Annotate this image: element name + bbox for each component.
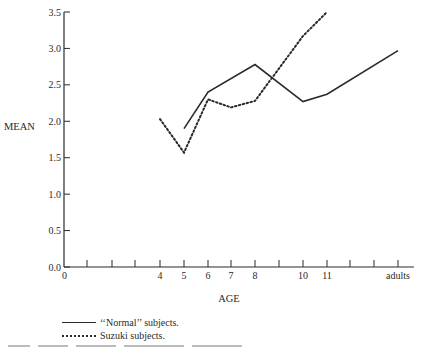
- y-tick-label: 1.5: [49, 152, 62, 163]
- x-tick-label: 0: [62, 270, 67, 281]
- x-tick-label: 8: [253, 270, 258, 281]
- y-tick-label: 2.0: [49, 116, 62, 127]
- legend-label-suzuki: Suzuki subjects.: [100, 329, 165, 342]
- x-tick-label: 10: [298, 270, 308, 281]
- solid-line-swatch-icon: [62, 322, 96, 323]
- y-tick-label: 0.5: [49, 225, 62, 236]
- caption-fragment: [8, 345, 268, 350]
- chart-series: [160, 12, 398, 153]
- x-axis-title: AGE: [218, 293, 240, 304]
- legend-label-normal: ‘‘Normal’’ subjects.: [100, 316, 179, 329]
- chart-axes: 0.00.51.01.52.02.53.03.50456781011adults: [49, 7, 415, 282]
- x-tick-label: 4: [158, 270, 163, 281]
- series-normal-line: [184, 51, 398, 129]
- series-suzuki-line: [160, 12, 327, 153]
- chart-legend: ‘‘Normal’’ subjects. Suzuki subjects.: [62, 316, 179, 342]
- x-tick-label: adults: [386, 270, 410, 281]
- line-chart: 0.00.51.01.52.02.53.03.50456781011adults…: [0, 0, 422, 315]
- dotted-line-swatch-icon: [62, 335, 96, 337]
- x-tick-label: 11: [322, 270, 332, 281]
- y-tick-label: 3.5: [49, 7, 62, 18]
- y-tick-label: 1.0: [49, 189, 62, 200]
- legend-item-normal: ‘‘Normal’’ subjects.: [62, 316, 179, 329]
- x-tick-label: 6: [206, 270, 211, 281]
- y-tick-label: 0.0: [49, 262, 62, 273]
- x-tick-label: 5: [182, 270, 187, 281]
- y-tick-label: 2.5: [49, 79, 62, 90]
- legend-item-suzuki: Suzuki subjects.: [62, 329, 179, 342]
- x-tick-label: 7: [229, 270, 234, 281]
- y-tick-label: 3.0: [49, 43, 62, 54]
- y-axis-title: MEAN: [4, 121, 35, 132]
